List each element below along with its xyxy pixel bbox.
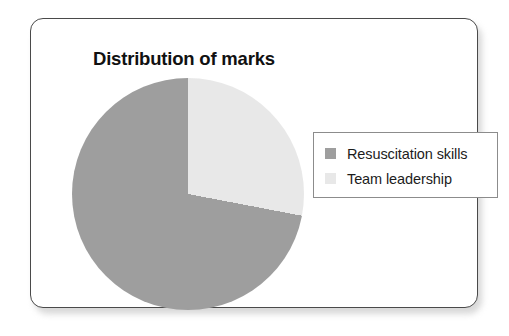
legend-item-label: Resuscitation skills <box>347 146 468 162</box>
chart-card: Distribution of marks Resuscitation skil… <box>30 18 478 308</box>
legend-item-label: Team leadership <box>347 171 452 187</box>
pie-chart <box>72 78 304 310</box>
pie-slices <box>72 78 304 310</box>
legend-item-team-leadership[interactable]: Team leadership <box>325 166 497 191</box>
figure-root: Distribution of marks Resuscitation skil… <box>0 0 509 336</box>
page-title: Distribution of marks <box>93 48 275 70</box>
legend-swatch-icon <box>325 148 336 159</box>
chart-legend: Resuscitation skills Team leadership <box>313 132 498 198</box>
legend-swatch-icon <box>325 173 336 184</box>
legend-item-resuscitation-skills[interactable]: Resuscitation skills <box>325 141 497 166</box>
